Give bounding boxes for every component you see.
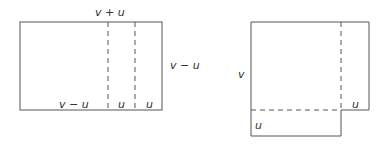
left-rectangle — [20, 22, 162, 110]
right-left-label: v — [238, 69, 245, 80]
left-bottom-label-2: u — [118, 99, 125, 110]
diagram-canvas — [0, 0, 389, 144]
left-top-label: v + u — [95, 7, 125, 18]
left-bottom-label-3: u — [146, 99, 153, 110]
left-right-label: v − u — [170, 60, 200, 71]
right-figure — [251, 22, 369, 136]
right-inner-label: u — [352, 99, 359, 110]
bottom-inner-label: u — [255, 120, 262, 131]
left-bottom-label-1: v − u — [59, 99, 89, 110]
